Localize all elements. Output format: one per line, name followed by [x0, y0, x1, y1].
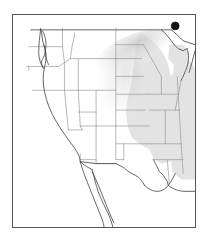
map-figure: Western and Central United States Great … [0, 0, 211, 248]
us-mexico-border [80, 162, 144, 186]
gulf-coast-east [168, 185, 195, 191]
map-frame: Western and Central United States Great … [12, 14, 196, 228]
point-marker-group[interactable] [171, 22, 179, 30]
west-coast-main [43, 45, 80, 162]
occurrence-point-marker[interactable] [171, 22, 179, 30]
shaded-range-east-extension [168, 45, 189, 67]
texas-east-border [153, 160, 168, 186]
texas-gulf-coast [145, 174, 176, 192]
map-svg [13, 15, 195, 227]
gulf-of-california [92, 172, 114, 224]
lake-superior-shore [171, 30, 195, 45]
